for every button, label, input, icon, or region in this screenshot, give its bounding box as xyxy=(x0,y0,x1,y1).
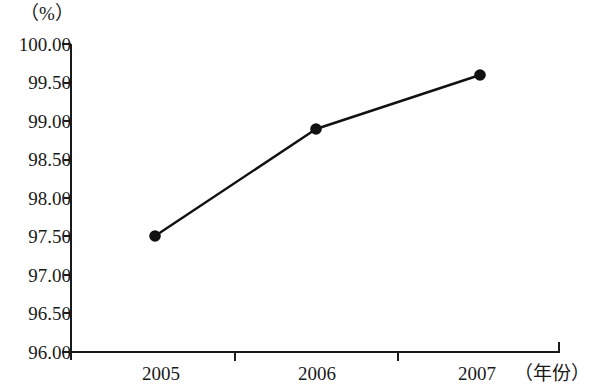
data-line-series-1 xyxy=(155,75,480,236)
plot-area xyxy=(0,0,594,391)
data-point-2006 xyxy=(310,123,322,135)
data-point-2005 xyxy=(149,230,161,242)
line-chart: （%） 100.00 99.50 99.00 98.50 98.00 97.50… xyxy=(0,0,594,391)
data-point-2007 xyxy=(474,69,486,81)
